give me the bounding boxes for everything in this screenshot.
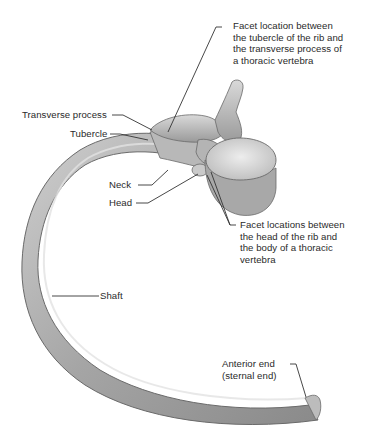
label-anterior-end: Anterior end (sternal end) (222, 358, 277, 381)
label-facet-tubercle: Facet location between the tubercle of t… (233, 20, 343, 66)
leader-neck (138, 170, 168, 185)
label-shaft: Shaft (100, 290, 123, 302)
label-transverse-process: Transverse process (22, 109, 107, 121)
leader-transverse-process (112, 115, 152, 130)
label-neck: Neck (109, 179, 131, 191)
leader-lines (52, 27, 306, 397)
leader-anterior-end (290, 364, 306, 397)
label-tubercle: Tubercle (70, 128, 107, 140)
label-head: Head (109, 197, 132, 209)
label-facet-head: Facet locations between the head of the … (240, 219, 345, 265)
leader-head (136, 174, 198, 203)
rib-vertebra-diagram: Facet location between the tubercle of t… (0, 0, 377, 442)
